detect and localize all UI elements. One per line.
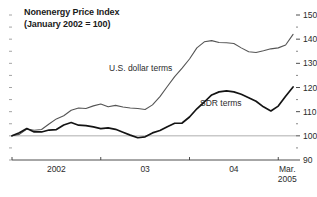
y-tick-label: 150	[303, 10, 317, 20]
y-tick-label: 110	[303, 107, 317, 117]
x-tick-label: 2002	[36, 164, 76, 174]
right-axis-ticks	[296, 15, 300, 160]
series-label-usd: U.S. dollar terms	[109, 63, 172, 73]
y-tick-label: 140	[303, 34, 317, 44]
y-tick-label: 130	[303, 58, 317, 68]
chart-title-block: Nonenergy Price Index (January 2002 = 10…	[24, 6, 119, 30]
x-end-label: Mar.2005	[270, 164, 304, 184]
series-label-sdr: SDR terms	[200, 98, 242, 108]
x-end-label-line1: Mar.	[270, 164, 304, 174]
y-tick-label: 100	[303, 131, 317, 141]
x-end-label-line2: 2005	[270, 174, 304, 184]
left-axis-ticks	[9, 15, 12, 160]
chart-subtitle: (January 2002 = 100)	[24, 18, 119, 30]
series-line-sdr	[12, 87, 293, 138]
y-tick-label: 90	[303, 155, 312, 165]
series-line-usd	[12, 34, 293, 136]
page-title: Nonenergy Price Index	[24, 6, 119, 18]
x-tick-label: 04	[214, 164, 254, 174]
chart-container: Nonenergy Price Index (January 2002 = 10…	[0, 0, 317, 197]
y-tick-label: 120	[303, 83, 317, 93]
x-tick-label: 03	[125, 164, 165, 174]
